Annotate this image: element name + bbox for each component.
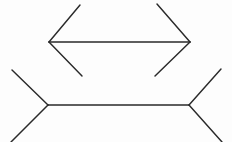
upper-left-fin-top xyxy=(49,5,80,42)
upper-left-fin-bottom xyxy=(49,42,82,76)
upper-right-fin-top xyxy=(157,4,190,42)
muller-lyer-figure xyxy=(0,0,232,142)
lower-right-fin-bottom xyxy=(189,105,222,142)
upper-figure xyxy=(49,4,190,76)
lower-left-fin-bottom xyxy=(11,105,48,142)
lower-right-fin-top xyxy=(189,69,221,105)
upper-right-fin-bottom xyxy=(155,42,190,76)
lower-figure xyxy=(11,69,222,142)
line-drawing-svg xyxy=(0,0,232,142)
lower-left-fin-top xyxy=(12,70,48,105)
